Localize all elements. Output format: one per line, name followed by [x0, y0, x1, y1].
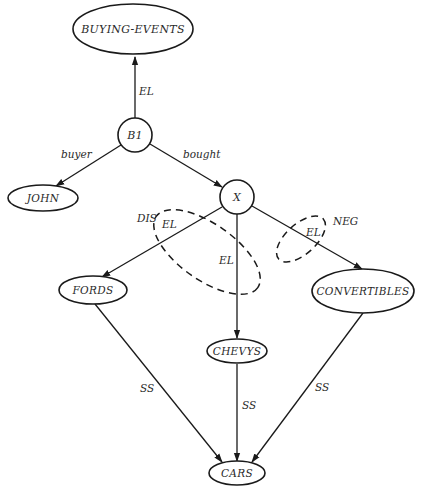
node-convertibles: CONVERTIBLES [312, 269, 414, 313]
node-b1-label: B1 [126, 129, 143, 142]
partition-label-dis: DIS [136, 212, 157, 224]
node-fords-label: FORDS [72, 284, 114, 296]
partition-dis-el-1: EL [161, 218, 177, 230]
node-john: JOHN [8, 185, 78, 211]
node-chevys-label: CHEVYS [213, 345, 261, 357]
edge-label-el-top: EL [138, 85, 154, 97]
node-x-label: X [232, 191, 242, 204]
node-b1: B1 [118, 118, 152, 152]
node-chevys: CHEVYS [207, 339, 267, 363]
node-cars: CARS [209, 461, 265, 485]
edge-convertibles-cars [252, 313, 363, 462]
node-buying-events: BUYING-EVENTS [73, 4, 193, 54]
edge-label-ss-fords: SS [140, 382, 154, 394]
node-fords: FORDS [59, 276, 127, 304]
edge-label-ss-convertibles: SS [315, 381, 329, 393]
edges [56, 57, 363, 462]
partition-neg-el: EL [305, 226, 321, 238]
node-x: X [220, 180, 254, 214]
node-john-label: JOHN [25, 192, 60, 204]
node-buying-events-label: BUYING-EVENTS [80, 23, 185, 36]
negation-partition [269, 208, 334, 270]
edge-label-bought: bought [183, 148, 221, 160]
edge-fords-cars [95, 304, 222, 462]
edge-label-ss-chevys: SS [242, 399, 256, 411]
disjunction-partition [140, 194, 274, 311]
semantic-network-diagram: BUYING-EVENTS B1 JOHN X FORDS CHEVYS CON… [0, 0, 424, 493]
partition-dis-el-2: EL [218, 254, 234, 266]
partition-label-neg: NEG [332, 215, 358, 227]
node-cars-label: CARS [221, 467, 253, 479]
edge-labels: EL buyer bought DIS EL EL EL NEG SS SS S… [61, 85, 358, 411]
node-convertibles-label: CONVERTIBLES [316, 285, 409, 297]
edge-label-buyer: buyer [61, 148, 93, 160]
